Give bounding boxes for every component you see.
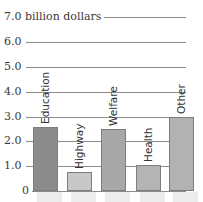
- y-tick-label: 4.0: [4, 86, 22, 97]
- bar-health: [136, 165, 161, 191]
- gridline: [26, 67, 186, 68]
- y-tick-label: 0: [22, 185, 29, 196]
- bar-shadow: [105, 192, 130, 202]
- y-tick-label: 5.0: [4, 61, 22, 72]
- bar-shadow: [173, 192, 198, 202]
- gridline: [26, 42, 186, 43]
- y-tick-label: 3.0: [4, 111, 22, 122]
- y-tick-label: 2.0: [4, 135, 22, 146]
- bar-label-welfare: Welfare: [108, 86, 119, 126]
- bar-other: [169, 117, 194, 191]
- bar-shadow: [140, 192, 165, 202]
- y-tick-label: 1.0: [4, 160, 22, 171]
- y-tick-label: 7.0 billion dollars: [4, 11, 101, 22]
- bar-education: [33, 127, 58, 191]
- gridline: [104, 17, 186, 18]
- bar-label-health: Health: [143, 128, 154, 162]
- bar-label-highway: Highway: [74, 124, 85, 169]
- bar-shadow: [71, 192, 96, 202]
- bar-welfare: [101, 129, 126, 191]
- bar-label-other: Other: [176, 84, 187, 114]
- bar-label-education: Education: [40, 72, 51, 124]
- y-tick-label: 6.0: [4, 36, 22, 47]
- bar-highway: [67, 172, 92, 191]
- bar-shadow: [37, 192, 62, 202]
